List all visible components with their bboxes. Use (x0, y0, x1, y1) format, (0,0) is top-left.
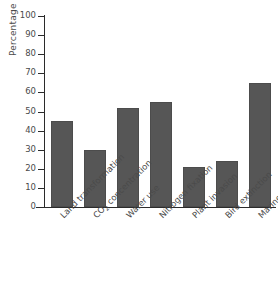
y-axis-tick-label: 70 (2, 68, 36, 77)
percentage-change-bar-chart: Percentage change 1009080706050403020100… (0, 0, 278, 289)
y-axis-tick-label: 0 (2, 202, 36, 211)
y-axis-tick-label: 90 (2, 30, 36, 39)
y-axis-tick (38, 207, 44, 208)
y-axis-tick (38, 73, 44, 74)
y-axis-tick (38, 112, 44, 113)
y-axis-tick (38, 188, 44, 189)
y-axis-tick (38, 92, 44, 93)
x-axis-tick-labels: Land transformationCO2 concentrationWate… (45, 209, 278, 289)
y-axis-tick-label: 80 (2, 49, 36, 58)
y-axis-tick (38, 131, 44, 132)
y-axis-tick (38, 54, 44, 55)
y-axis-tick-label: 20 (2, 164, 36, 173)
y-axis-tick-label: 100 (2, 11, 36, 20)
y-axis-tick-label: 40 (2, 126, 36, 135)
y-axis-tick (38, 150, 44, 151)
bars-layer (45, 16, 276, 207)
bar (51, 121, 73, 207)
y-axis-tick-label: 10 (2, 183, 36, 192)
y-axis-tick (38, 16, 44, 17)
y-axis-tick-labels: 1009080706050403020100 (0, 0, 36, 289)
y-axis-tick-label: 50 (2, 107, 36, 116)
y-axis-tick-label: 60 (2, 87, 36, 96)
y-axis-tick-label: 30 (2, 145, 36, 154)
y-axis-tick (38, 35, 44, 36)
y-axis-tick (38, 169, 44, 170)
